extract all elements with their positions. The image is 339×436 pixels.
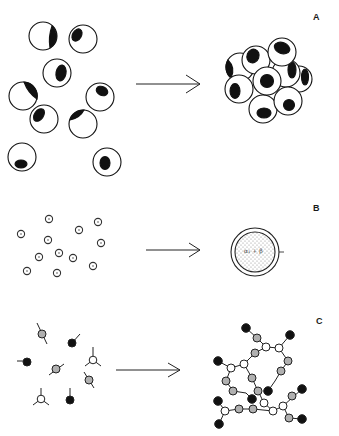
panel-a-cell-aggregate [225,38,312,123]
panel-label-a: A [313,12,320,22]
arrow-a [136,75,200,93]
panel-label-b: B [313,203,320,213]
panel-a-dispersed-cells [8,22,121,176]
panel-c-monomers [17,323,101,405]
cell [86,83,114,111]
cell [69,110,97,138]
cell [69,25,97,53]
cell [29,22,57,50]
panel-b-dispersed-particles [17,215,104,276]
cell [8,143,36,171]
panel-c-polymer-network [214,324,307,429]
arrow-c [116,363,180,377]
cell [43,59,71,87]
panel-label-c: C [316,316,323,326]
cell [9,82,37,110]
cell [30,105,58,133]
droplet-formula: α₁ + β [244,247,263,254]
diagram-canvas [0,0,339,436]
arrow-b [146,243,200,257]
cell [93,148,121,176]
